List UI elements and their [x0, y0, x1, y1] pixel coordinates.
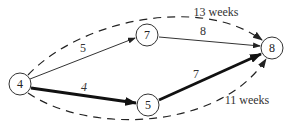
- node-7: 7: [136, 24, 158, 46]
- node-label: 7: [144, 28, 150, 42]
- node-4: 4: [9, 73, 31, 95]
- network-diagram: 5 8 4 7 13 weeks 11 weeks 4 7 5 8: [0, 0, 290, 130]
- edge-label-4-7: 5: [80, 41, 86, 55]
- node-5: 5: [137, 94, 159, 116]
- edge-label-5-8: 7: [193, 67, 199, 81]
- edge-label-4-5: 4: [81, 80, 87, 94]
- node-label: 5: [145, 98, 151, 112]
- edge-label-7-8: 8: [200, 24, 206, 38]
- edge-7-8: [159, 37, 260, 46]
- path-total-label-lower: 11 weeks: [225, 93, 270, 107]
- node-label: 4: [17, 77, 23, 91]
- node-8: 8: [261, 37, 283, 59]
- path-total-label-upper: 13 weeks: [194, 5, 239, 19]
- node-label: 8: [269, 41, 275, 55]
